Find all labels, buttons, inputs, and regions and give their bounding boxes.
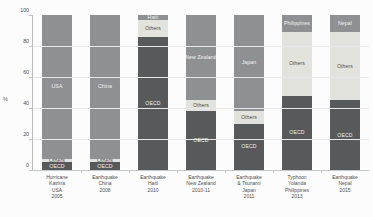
y-axis-tick-20: 20	[13, 131, 29, 137]
y-tick-mark	[29, 77, 32, 78]
y-axis-tick-100: 100	[13, 7, 29, 13]
bar-earthquake-new-zealand-segment-country[interactable]: New Zealand	[186, 15, 217, 100]
y-axis-tick-80: 80	[13, 38, 29, 44]
segment-label: Haiti	[148, 15, 159, 20]
plot-area: OECDOthersUSAOECDOthersChinaOECDOthersHa…	[33, 15, 369, 170]
x-axis-label-bar-earthquake-china: EarthquakeChina2008	[81, 174, 129, 193]
gridline	[33, 108, 369, 109]
bar-earthquake-nepal-segment-others[interactable]: Others	[330, 32, 361, 100]
x-axis-label-bar-earthquake-tsunami-japan: Earthquake& TsunamiJapan2011	[225, 174, 273, 200]
x-axis-separator	[225, 170, 226, 173]
bar-earthquake-tsunami-japan[interactable]: OECDOthersJapan	[234, 15, 265, 170]
segment-label: USA	[52, 84, 63, 89]
x-label-line: 2008	[81, 187, 129, 193]
segment-label: Others	[241, 115, 257, 120]
y-tick-mark	[29, 139, 32, 140]
gridline	[33, 77, 369, 78]
x-axis-label-bar-earthquake-new-zealand: EarthquakeNew Zealand2010-11	[177, 174, 225, 193]
x-axis-separator	[81, 170, 82, 173]
bar-earthquake-new-zealand-segment-others[interactable]: Others	[186, 100, 217, 111]
bar-earthquake-tsunami-japan-segment-oecd[interactable]: OECD	[234, 124, 265, 171]
y-tick-mark	[29, 170, 32, 171]
bar-earthquake-china[interactable]: OECDOthersChina	[90, 15, 121, 170]
segment-label: OECD	[241, 144, 256, 149]
segment-label: China	[98, 84, 112, 89]
bar-katrina-usa-segment-others[interactable]: Others	[42, 159, 73, 162]
bar-earthquake-china-segment-others[interactable]: Others	[90, 159, 121, 162]
bar-earthquake-haiti-segment-oecd[interactable]: OECD	[138, 37, 169, 170]
bar-earthquake-tsunami-japan-segment-others[interactable]: Others	[234, 111, 265, 123]
segment-label: Japan	[242, 60, 257, 65]
y-axis-tick-60: 60	[13, 69, 29, 75]
gridline	[33, 139, 369, 140]
bar-typhoon-yolanda-philippines-segment-others[interactable]: Others	[282, 32, 313, 96]
segment-label: Others	[337, 64, 353, 69]
x-axis-line	[32, 170, 369, 171]
segment-label: New Zealand	[186, 55, 217, 60]
x-label-line: 2005	[33, 193, 81, 199]
y-axis-ticks: 100806040200	[14, 10, 32, 176]
bar-earthquake-nepal[interactable]: OECDOthersNepal	[330, 15, 361, 170]
segment-label: OECD	[97, 164, 112, 169]
bar-earthquake-new-zealand[interactable]: OECDOthersNew Zealand	[186, 15, 217, 170]
x-axis-separator	[177, 170, 178, 173]
bar-katrina-usa-segment-country[interactable]: USA	[42, 15, 73, 159]
x-axis-label-bar-earthquake-nepal: EarthquakeNepal2015	[321, 174, 369, 193]
x-axis-label-bar-earthquake-haiti: EarthquakeHaiti2010	[129, 174, 177, 193]
segment-label: Philippines	[284, 21, 310, 26]
gridline	[33, 46, 369, 47]
x-label-line: 2015	[321, 187, 369, 193]
bar-typhoon-yolanda-philippines-segment-country[interactable]: Philippines	[282, 15, 313, 32]
segment-label: Nepal	[338, 21, 352, 26]
bar-earthquake-haiti-segment-others[interactable]: Others	[138, 20, 169, 37]
x-label-line: 2013	[273, 193, 321, 199]
y-axis-tick-0: 0	[13, 162, 29, 168]
x-label-line: 2010	[129, 187, 177, 193]
segment-label: Others	[289, 61, 305, 66]
segment-label: OECD	[337, 133, 352, 138]
bar-earthquake-haiti-segment-country[interactable]: Haiti	[138, 15, 169, 20]
segment-label: OECD	[289, 130, 304, 135]
segment-label: Others	[49, 159, 65, 162]
x-label-line: 2010-11	[177, 187, 225, 193]
segment-label: OECD	[145, 101, 160, 106]
y-axis-tick-40: 40	[13, 100, 29, 106]
x-axis-separator	[321, 170, 322, 173]
y-tick-mark	[29, 15, 32, 16]
segment-label: Others	[145, 26, 161, 31]
bar-katrina-usa-segment-oecd[interactable]: OECD	[42, 162, 73, 170]
x-axis-label-bar-typhoon-yolanda-philippines: TyphoonYolandaPhilippines2013	[273, 174, 321, 200]
bar-earthquake-new-zealand-segment-oecd[interactable]: OECD	[186, 111, 217, 170]
stacked-bar-chart: % 100806040200 OECDOthersUSAOECDOthersCh…	[0, 0, 373, 217]
x-axis-label-bar-katrina-usa: HurricaneKatrinaUSA2005	[33, 174, 81, 200]
bar-earthquake-nepal-segment-oecd[interactable]: OECD	[330, 100, 361, 170]
bar-earthquake-tsunami-japan-segment-country[interactable]: Japan	[234, 15, 265, 111]
bar-earthquake-china-segment-country[interactable]: China	[90, 15, 121, 159]
x-axis-separator	[273, 170, 274, 173]
bar-typhoon-yolanda-philippines[interactable]: OECDOthersPhilippines	[282, 15, 313, 170]
y-tick-mark	[29, 46, 32, 47]
segment-label: Others	[97, 159, 113, 162]
x-label-line: 2011	[225, 193, 273, 199]
x-axis-separator	[129, 170, 130, 173]
bar-typhoon-yolanda-philippines-segment-oecd[interactable]: OECD	[282, 96, 313, 170]
y-axis-title: %	[3, 96, 8, 102]
y-tick-mark	[29, 108, 32, 109]
segment-label: OECD	[49, 164, 64, 169]
bar-earthquake-china-segment-oecd[interactable]: OECD	[90, 162, 121, 170]
bar-earthquake-haiti[interactable]: OECDOthersHaiti	[138, 15, 169, 170]
bar-earthquake-nepal-segment-country[interactable]: Nepal	[330, 15, 361, 32]
bar-katrina-usa[interactable]: OECDOthersUSA	[42, 15, 73, 170]
